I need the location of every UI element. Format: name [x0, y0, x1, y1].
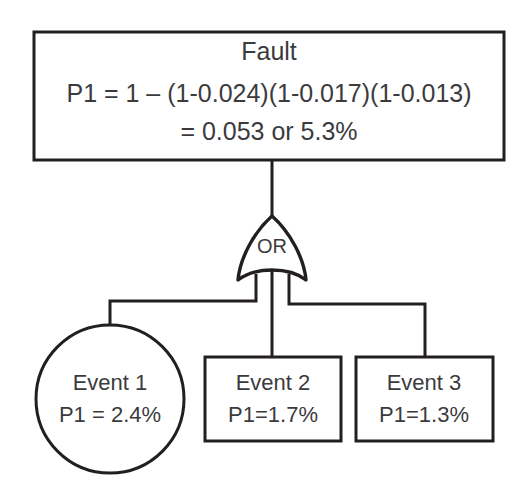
basic-event-2[interactable]: Event 2 P1=1.7%	[205, 357, 341, 441]
event-3-name: Event 3	[387, 370, 462, 395]
event-1-name: Event 1	[73, 370, 148, 395]
event-2-name: Event 2	[236, 370, 311, 395]
basic-event-1[interactable]: Event 1 P1 = 2.4%	[36, 325, 184, 473]
basic-event-3[interactable]: Event 3 P1=1.3%	[356, 357, 493, 441]
event-2-probability: P1=1.7%	[228, 402, 318, 427]
event-1-probability: P1 = 2.4%	[59, 402, 161, 427]
event-1-circle[interactable]	[36, 325, 184, 473]
top-event-title: Fault	[241, 37, 297, 65]
event-3-probability: P1=1.3%	[379, 402, 469, 427]
or-gate-label: OR	[257, 235, 287, 257]
connector-gate-to-event1	[110, 274, 256, 326]
top-event-formula-line2: = 0.053 or 5.3%	[180, 117, 357, 145]
fault-tree-canvas: Fault P1 = 1 – (1-0.024)(1-0.017)(1-0.01…	[0, 0, 531, 502]
top-event-formula-line1: P1 = 1 – (1-0.024)(1-0.017)(1-0.013)	[66, 79, 471, 107]
top-event-node[interactable]: Fault P1 = 1 – (1-0.024)(1-0.017)(1-0.01…	[34, 32, 504, 160]
fault-tree-diagram: Fault P1 = 1 – (1-0.024)(1-0.017)(1-0.01…	[0, 0, 531, 502]
connector-gate-to-event3	[289, 274, 425, 357]
